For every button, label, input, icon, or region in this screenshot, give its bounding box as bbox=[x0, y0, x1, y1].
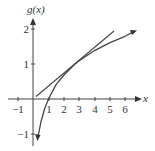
x-axis-label: x bbox=[142, 92, 148, 104]
curve-start-arrow-icon bbox=[35, 134, 41, 141]
x-tick-label: 1 bbox=[46, 103, 52, 115]
chart: −1 1 2 3 4 5 6 2 1 −1 g(x) x bbox=[0, 0, 155, 151]
x-tick-label: 3 bbox=[76, 103, 82, 115]
y-tick-label: −1 bbox=[17, 128, 29, 140]
x-axis-arrow-icon bbox=[135, 96, 142, 102]
y-tick-label: 1 bbox=[24, 58, 30, 70]
g-curve bbox=[38, 32, 133, 137]
curve-end-arrow-icon bbox=[130, 30, 137, 35]
x-tick-label: 4 bbox=[92, 103, 98, 115]
y-tick-label: 2 bbox=[24, 23, 30, 35]
y-axis-label: g(x) bbox=[27, 3, 45, 16]
x-tick-label: −1 bbox=[12, 103, 24, 115]
y-axis-arrow-icon bbox=[30, 18, 36, 25]
x-tick-label: 5 bbox=[107, 103, 113, 115]
x-tick-label: 6 bbox=[122, 103, 128, 115]
x-tick-label: 2 bbox=[61, 103, 67, 115]
